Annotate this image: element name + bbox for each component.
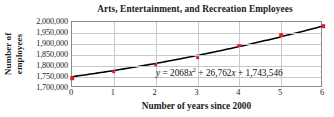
- y-axis-tick-label: 1,700,000: [36, 83, 68, 92]
- regression-equation: y = 2068x2 + 26,762x + 1,743,546: [156, 66, 283, 78]
- y-axis-title-text: Number of employees: [3, 33, 24, 75]
- data-point-marker: [70, 76, 74, 80]
- equation-b: 26,762: [206, 68, 232, 78]
- gridline-horizontal: [72, 33, 321, 34]
- data-point-marker: [196, 56, 200, 60]
- x-axis-tick-label: 2: [153, 88, 157, 97]
- x-axis-title: Number of years since 2000: [71, 101, 322, 111]
- data-point-marker: [238, 44, 242, 48]
- y-axis-tick-label: 1,900,000: [36, 39, 68, 48]
- equation-c: 1,743,546: [246, 68, 283, 78]
- y-axis-tick-label: 1,950,000: [36, 28, 68, 37]
- x-axis-tick-labels: 0123456: [71, 88, 322, 100]
- chart-title: Arts, Entertainment, and Recreation Empl…: [60, 4, 330, 14]
- x-axis-tick-label: 1: [111, 88, 115, 97]
- equation-a: 2068: [170, 68, 189, 78]
- y-axis-tick-label: 1,750,000: [36, 72, 68, 81]
- data-point-marker: [279, 33, 283, 37]
- x-axis-tick-label: 3: [194, 88, 198, 97]
- data-point-marker: [321, 25, 325, 29]
- gridline-vertical: [114, 22, 115, 86]
- data-point-marker: [112, 70, 116, 74]
- y-axis-title: Number of employees: [0, 18, 26, 90]
- y-axis-tick-label: 2,000,000: [36, 17, 68, 26]
- y-axis-tick-labels: 2,000,0001,950,0001,900,0001,850,0001,80…: [26, 21, 70, 87]
- y-axis-tick-label: 1,800,000: [36, 61, 68, 70]
- x-axis-tick-label: 6: [320, 88, 324, 97]
- x-axis-tick-label: 4: [236, 88, 240, 97]
- y-axis-tick-label: 1,850,000: [36, 50, 68, 59]
- gridline-horizontal: [72, 44, 321, 45]
- chart-figure: Arts, Entertainment, and Recreation Empl…: [0, 0, 334, 117]
- y-axis-title-line2: employees: [13, 33, 24, 75]
- y-axis-title-line1: Number of: [3, 33, 14, 75]
- x-axis-tick-label: 0: [69, 88, 73, 97]
- x-axis-tick-label: 5: [278, 88, 282, 97]
